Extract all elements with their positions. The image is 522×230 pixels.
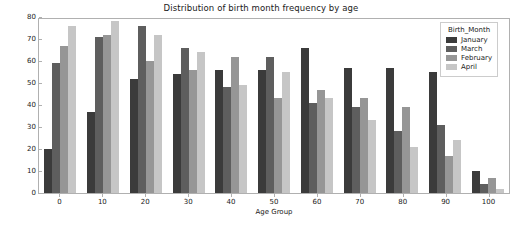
legend-swatch-icon bbox=[446, 64, 457, 70]
bar-february bbox=[189, 70, 197, 193]
x-axis-tick-50: 50 bbox=[253, 194, 296, 208]
bar-march bbox=[181, 48, 189, 193]
bar-april bbox=[410, 147, 418, 193]
x-axis-tick-20: 20 bbox=[124, 194, 167, 208]
y-axis-tick: 30 bbox=[27, 123, 39, 131]
x-axis-tick-mark bbox=[145, 194, 146, 197]
chart-title: Distribution of birth month frequency by… bbox=[0, 3, 522, 13]
bar-march bbox=[266, 57, 274, 193]
bar-february bbox=[274, 98, 282, 193]
bar-january bbox=[472, 171, 480, 193]
bar-group bbox=[82, 19, 125, 193]
y-axis-tick-mark bbox=[39, 17, 42, 18]
x-axis-tick-60: 60 bbox=[295, 194, 338, 208]
y-axis-tick: 40 bbox=[27, 101, 39, 109]
legend-label: March bbox=[461, 45, 482, 53]
y-axis-tick: 60 bbox=[27, 57, 39, 65]
legend-label: April bbox=[461, 63, 477, 71]
bar-april bbox=[453, 140, 461, 193]
legend-entry-february[interactable]: February bbox=[446, 54, 492, 62]
legend-swatch-icon bbox=[446, 55, 457, 61]
bar-april bbox=[325, 98, 333, 193]
chart-figure: Distribution of birth month frequency by… bbox=[0, 0, 522, 230]
x-axis-ticks: 0102030405060708090100 bbox=[38, 194, 510, 208]
bar-january bbox=[173, 74, 181, 193]
bar-january bbox=[215, 70, 223, 193]
bar-group bbox=[167, 19, 210, 193]
bar-march bbox=[480, 184, 488, 193]
bar-january bbox=[258, 70, 266, 193]
legend-title: Birth_Month bbox=[446, 26, 492, 34]
bar-april bbox=[154, 35, 162, 193]
bar-group bbox=[39, 19, 82, 193]
x-axis-tick-90: 90 bbox=[424, 194, 467, 208]
bar-january bbox=[87, 112, 95, 193]
legend-label: February bbox=[461, 54, 492, 62]
x-axis-tick-mark bbox=[102, 194, 103, 197]
bar-march bbox=[52, 63, 60, 193]
bar-group bbox=[210, 19, 253, 193]
x-axis-tick-0: 0 bbox=[38, 194, 81, 208]
x-axis-tick-mark bbox=[489, 194, 490, 197]
bar-january bbox=[386, 68, 394, 193]
x-axis-tick-70: 70 bbox=[338, 194, 381, 208]
bar-march bbox=[223, 87, 231, 193]
y-axis-tick-label: 80 bbox=[27, 13, 39, 21]
y-axis-tick-label: 30 bbox=[27, 123, 39, 131]
x-axis-tick-mark bbox=[231, 194, 232, 197]
bar-february bbox=[231, 57, 239, 193]
bar-april bbox=[496, 189, 504, 193]
bar-february bbox=[445, 156, 453, 193]
x-axis-tick-mark bbox=[59, 194, 60, 197]
bar-february bbox=[402, 107, 410, 193]
legend-swatch-icon bbox=[446, 46, 457, 52]
x-axis-tick-30: 30 bbox=[167, 194, 210, 208]
x-axis-tick-mark bbox=[188, 194, 189, 197]
legend-entry-april[interactable]: April bbox=[446, 63, 492, 71]
y-axis-tick-label: 40 bbox=[27, 101, 39, 109]
bar-february bbox=[60, 46, 68, 193]
bar-february bbox=[103, 35, 111, 193]
bar-group bbox=[124, 19, 167, 193]
legend-entry-january[interactable]: January bbox=[446, 36, 492, 44]
bar-group bbox=[338, 19, 381, 193]
x-axis-tick-mark bbox=[360, 194, 361, 197]
y-axis-tick: 70 bbox=[27, 35, 39, 43]
bar-january bbox=[344, 68, 352, 193]
bar-march bbox=[138, 26, 146, 193]
x-axis-tick-mark bbox=[403, 194, 404, 197]
bar-april bbox=[239, 85, 247, 193]
bar-march bbox=[437, 125, 445, 193]
bar-april bbox=[68, 26, 76, 193]
x-axis-tick-mark bbox=[317, 194, 318, 197]
bar-group bbox=[295, 19, 338, 193]
bar-january bbox=[130, 79, 138, 193]
bar-february bbox=[146, 61, 154, 193]
y-axis-tick-label: 20 bbox=[27, 145, 39, 153]
bar-january bbox=[429, 72, 437, 193]
bar-march bbox=[394, 131, 402, 193]
bar-january bbox=[301, 48, 309, 193]
bar-january bbox=[44, 149, 52, 193]
bar-april bbox=[368, 120, 376, 193]
bars-layer bbox=[39, 19, 509, 193]
x-axis-tick-10: 10 bbox=[81, 194, 124, 208]
bar-march bbox=[309, 103, 317, 193]
y-axis-tick-label: 60 bbox=[27, 57, 39, 65]
legend-entry-march[interactable]: March bbox=[446, 45, 492, 53]
bar-group bbox=[253, 19, 296, 193]
legend-entries: JanuaryMarchFebruaryApril bbox=[446, 36, 492, 71]
bar-april bbox=[197, 52, 205, 193]
bar-february bbox=[488, 178, 496, 193]
bar-april bbox=[111, 21, 119, 193]
y-axis-tick-label: 10 bbox=[27, 167, 39, 175]
bar-march bbox=[352, 107, 360, 193]
bar-february bbox=[360, 98, 368, 193]
x-axis-label: Age Group bbox=[38, 208, 510, 216]
bar-february bbox=[317, 90, 325, 193]
x-axis-tick-100: 100 bbox=[467, 194, 510, 208]
x-axis-tick-mark bbox=[446, 194, 447, 197]
x-axis-tick-mark bbox=[274, 194, 275, 197]
y-axis-tick: 20 bbox=[27, 145, 39, 153]
legend-swatch-icon bbox=[446, 37, 457, 43]
